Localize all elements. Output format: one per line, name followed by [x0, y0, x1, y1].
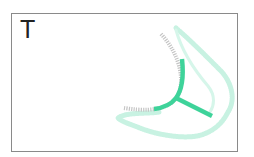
outline-shape	[118, 28, 232, 137]
accent-spoke	[176, 98, 212, 116]
diagram-figure	[0, 0, 254, 157]
dotted-arc	[124, 34, 181, 110]
